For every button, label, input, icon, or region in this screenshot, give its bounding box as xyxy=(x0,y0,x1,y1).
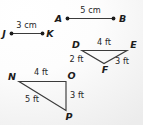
vertex-label-n: N xyxy=(8,71,16,82)
geometry-figure-canvas: A B 5 cm J K 3 cm D E F 4 ft 2 ft 3 ft N xyxy=(0,0,143,125)
segment-ab-endpoint-a-dot xyxy=(66,17,70,21)
vertex-label-d: D xyxy=(72,39,80,50)
point-label-a: A xyxy=(54,13,62,24)
triangle-def-side-fe-label: 3 ft xyxy=(115,56,130,66)
triangle-def-side-de-label: 4 ft xyxy=(97,37,112,47)
point-label-k: K xyxy=(46,28,54,39)
segment-jk-endpoint-j-dot xyxy=(10,32,14,36)
triangle-nop-side-op-label: 3 ft xyxy=(70,90,85,100)
segment-ab-group: A B 5 cm xyxy=(54,5,126,24)
triangle-nop-group: N O P 4 ft 3 ft 5 ft xyxy=(8,67,85,122)
triangle-def-side-df-label: 2 ft xyxy=(70,54,85,64)
segment-jk-measure-label: 3 cm xyxy=(16,20,36,30)
triangle-nop-side-np-label: 5 ft xyxy=(25,94,40,104)
geometry-diagram: A B 5 cm J K 3 cm D E F 4 ft 2 ft 3 ft N xyxy=(0,0,143,125)
point-label-b: B xyxy=(119,13,126,24)
triangle-nop-side-no-label: 4 ft xyxy=(34,67,49,77)
vertex-label-e: E xyxy=(130,39,137,50)
segment-ab-measure-label: 5 cm xyxy=(80,5,100,15)
vertex-label-p: P xyxy=(66,111,73,122)
segment-ab-endpoint-b-dot xyxy=(112,17,116,21)
point-label-j: J xyxy=(0,28,6,39)
vertex-label-o: O xyxy=(67,70,75,81)
vertex-label-f: F xyxy=(102,64,109,75)
triangle-def-group: D E F 4 ft 2 ft 3 ft xyxy=(70,37,138,76)
segment-jk-endpoint-k-dot xyxy=(41,32,45,36)
segment-jk-group: J K 3 cm xyxy=(0,20,54,39)
